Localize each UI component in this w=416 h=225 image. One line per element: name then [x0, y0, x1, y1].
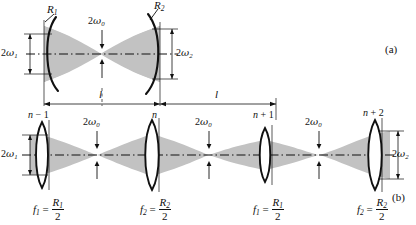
- spot2-arrow-top: [170, 29, 174, 34]
- figure-canvas: [0, 0, 416, 225]
- spot-size-1-label-panel-a: 2ω1: [1, 48, 18, 58]
- panel-b-label: (b): [392, 192, 405, 203]
- waist-arrowhead-a-top: [100, 44, 105, 49]
- spotb2-arrow-bot: [396, 174, 400, 179]
- lens-n-plus-2: [368, 120, 382, 190]
- spot-size-1-label-panel-b: 2ω1: [1, 149, 18, 159]
- length-arrow-right-1: [154, 102, 160, 106]
- panel-b-artwork: [22, 118, 404, 192]
- lens-index-label-n: n: [152, 110, 157, 120]
- spotb2-arrow-top: [396, 131, 400, 136]
- length-arrow-left-2: [160, 102, 166, 106]
- mirror-right-radius-label: R2: [154, 0, 164, 11]
- length-arrow-right-2: [270, 102, 276, 106]
- focal-length-formula-3: f1 = R1 2: [253, 198, 284, 223]
- focal-length-formula-1: f1 = R1 2: [33, 198, 64, 223]
- cavity-length-label-2: l: [215, 89, 218, 100]
- cavity-length-label-1: l: [99, 89, 102, 100]
- panel-a-label: (a): [385, 44, 397, 55]
- waist-label-panel-b-2: 2ω0: [195, 117, 212, 127]
- waist-label-panel-a: 2ω0: [88, 16, 105, 26]
- mirror-left-radius-label: R1: [47, 4, 57, 15]
- spot-size-2-label-panel-b: 2ω2: [392, 149, 409, 159]
- lens-index-label-n-minus-1: n − 1: [28, 110, 49, 120]
- lens-index-label-n-plus-1: n + 1: [253, 110, 274, 120]
- lens-n-minus-1: [36, 122, 48, 188]
- spot-size-2-label-panel-a: 2ω2: [176, 48, 193, 58]
- spot2-arrow-bot: [170, 74, 174, 79]
- spot1-arrow-top: [28, 34, 32, 39]
- optics-figure: R1 R2 2ω0 2ω1 2ω2 (a) l l n − 1 n n + 1 …: [0, 0, 416, 225]
- waist-arrowhead-a-bot: [100, 59, 105, 64]
- lens-n-plus-1: [260, 128, 271, 182]
- focal-length-formula-2: f2 = R2 2: [140, 198, 171, 223]
- focal-length-formula-4: f2 = R2 2: [357, 198, 388, 223]
- waist-label-panel-b-1: 2ω0: [83, 117, 100, 127]
- length-arrow-left-1: [44, 102, 50, 106]
- spot1-arrow-bot: [28, 69, 32, 74]
- lens-index-label-n-plus-2: n + 2: [363, 108, 384, 118]
- lens-n: [145, 120, 159, 190]
- waist-label-panel-b-3: 2ω0: [305, 117, 322, 127]
